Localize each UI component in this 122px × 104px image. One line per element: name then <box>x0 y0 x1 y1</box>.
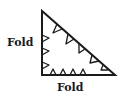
fold-label-bottom: Fold <box>57 82 83 93</box>
notch <box>42 48 49 55</box>
fold-label-left: Fold <box>7 37 33 48</box>
left-edge-notches <box>42 35 49 69</box>
notch <box>42 35 49 42</box>
notch <box>42 62 49 69</box>
hypotenuse-notches <box>53 24 108 70</box>
